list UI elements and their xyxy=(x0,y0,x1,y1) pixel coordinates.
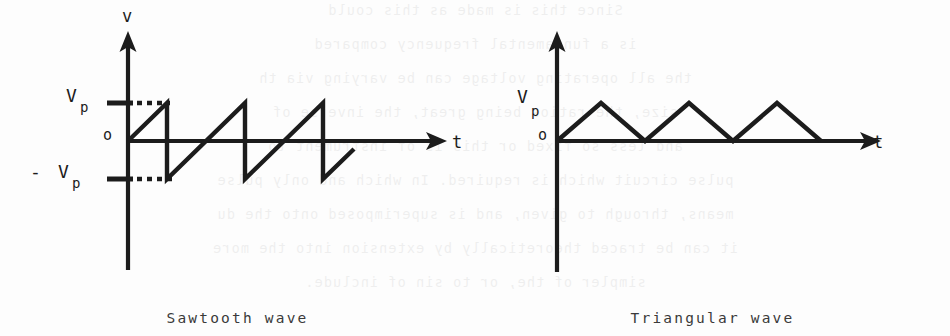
figure-caption-triangular: Triangular wave xyxy=(475,310,950,326)
triangular-plot: t o V p xyxy=(475,0,950,300)
tick-label-peak-subscript: p xyxy=(531,103,539,119)
tick-label-trough: - V p xyxy=(30,161,80,191)
tick-label-peak: V p xyxy=(66,85,88,115)
origin-label: o xyxy=(538,126,547,144)
tick-label-peak-symbol: V xyxy=(66,85,77,106)
y-axis-label: v xyxy=(122,6,132,26)
tick-label-trough-prefix: - xyxy=(30,161,41,182)
triangular-waveform-trace xyxy=(557,103,821,141)
v-axis xyxy=(120,31,137,270)
x-axis-label: t xyxy=(873,132,883,152)
figure-sawtooth-wave: v t o V p - V p Sawtooth wave xyxy=(0,0,475,336)
v-axis xyxy=(549,31,566,272)
tick-label-peak: V p xyxy=(517,86,539,119)
tick-label-trough-subscript: p xyxy=(72,175,80,191)
figure-triangular-wave: t o V p Triangular wave xyxy=(475,0,950,336)
sawtooth-plot: v t o V p - V p xyxy=(0,0,475,300)
origin-label: o xyxy=(103,126,112,144)
page-canvas: Since this is made as this couldis a fun… xyxy=(0,0,950,336)
t-axis xyxy=(557,132,881,150)
tick-label-trough-symbol: V xyxy=(58,161,69,182)
tick-label-peak-symbol: V xyxy=(517,86,528,107)
tick-label-peak-subscript: p xyxy=(80,99,88,115)
figure-caption-sawtooth: Sawtooth wave xyxy=(0,310,475,326)
x-axis-label: t xyxy=(452,132,462,152)
